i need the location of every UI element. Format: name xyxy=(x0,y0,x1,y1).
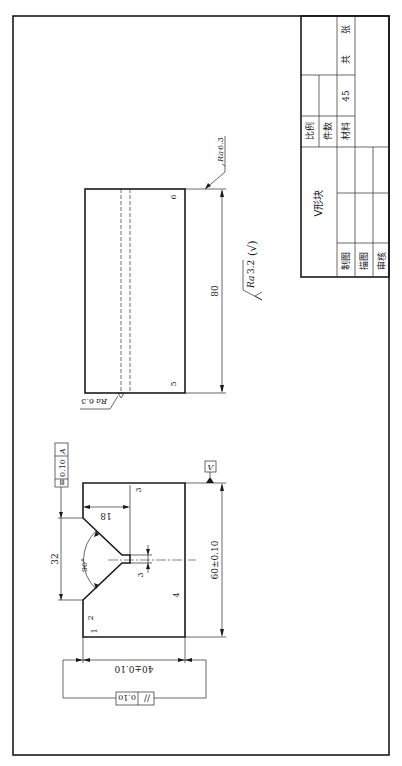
traced-label: 描图 xyxy=(358,252,369,270)
general-roughness-note: Ra 3.2 (√) xyxy=(243,240,262,300)
drawn-label: 制图 xyxy=(340,252,351,270)
quantity-label: 件数 xyxy=(322,122,333,140)
side-top-roughness-symbol: Ra xyxy=(216,151,225,163)
surface-label-4: 4 xyxy=(172,592,181,597)
symmetry-datum: A xyxy=(58,448,67,455)
slot-width-dimension: 3 xyxy=(136,572,145,577)
general-roughness-value: 3.2 xyxy=(246,260,256,274)
height-dimension: 40±0.10 xyxy=(114,664,153,674)
v-angle: 90° xyxy=(80,558,89,572)
datum-label: V xyxy=(208,463,215,472)
v-depth-dimension: 18 xyxy=(100,511,112,521)
part-name: V形块 xyxy=(313,190,324,217)
engineering-drawing: 比例 件数 材料 45 共 张 V形块 制图 描图 审核 Ra 3.2 (√) … xyxy=(0,0,402,766)
v-opening-dimension: 32 xyxy=(50,553,60,564)
front-view: 90° 18 3 32 ≡ 0.10 A 60±0.10 xyxy=(50,443,226,705)
width-dimension: 60±0.10 xyxy=(210,540,220,579)
parallel-symbol: // xyxy=(143,693,150,703)
symmetry-value: 0.10 xyxy=(58,459,67,477)
surface-label-2: 2 xyxy=(86,615,95,620)
side-length-dimension: 80 xyxy=(210,285,220,297)
sheets-total-label: 共 xyxy=(341,55,351,64)
symmetry-symbol: ≡ xyxy=(57,478,67,486)
side-top-roughness-value: 6.3 xyxy=(216,137,225,150)
material-label: 材料 xyxy=(340,122,351,140)
general-roughness-suffix: (√) xyxy=(246,240,259,256)
parallel-value: 0.10 xyxy=(118,693,136,702)
surface-label-5: 5 xyxy=(169,381,178,386)
side-bottom-roughness-value: 6.3 xyxy=(81,397,94,406)
surface-label-1: 1 xyxy=(90,628,99,633)
side-bottom-roughness-symbol: Ra xyxy=(96,397,108,406)
side-view: 80 6 5 Ra 6.3 Ra 6.3 xyxy=(80,136,226,409)
title-block: 比例 件数 材料 45 共 张 V形块 制图 描图 审核 xyxy=(301,16,389,277)
surface-label-3: 3 xyxy=(134,487,143,492)
material-value: 45 xyxy=(341,90,351,102)
sheets-unit-label: 张 xyxy=(341,25,351,34)
surface-label-6: 6 xyxy=(169,194,178,199)
scale-label: 比例 xyxy=(304,122,315,140)
general-roughness-symbol: Ra xyxy=(246,276,256,289)
checked-label: 审核 xyxy=(376,252,387,270)
